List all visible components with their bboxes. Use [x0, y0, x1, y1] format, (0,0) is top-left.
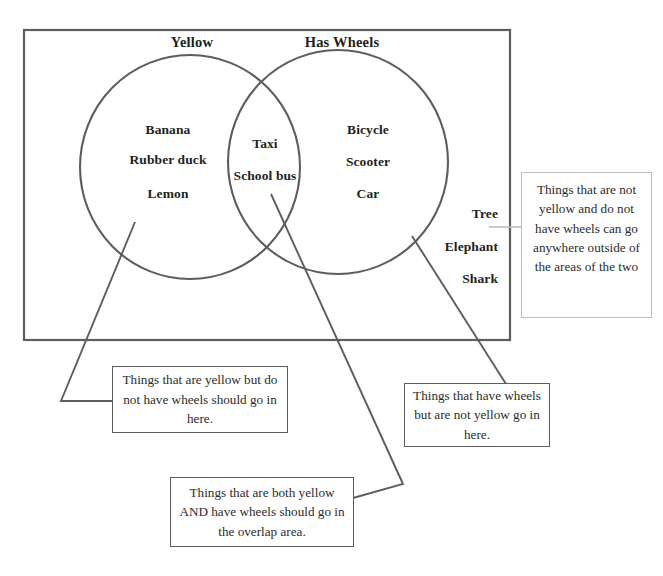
callout-right-only-text: Things that have wheels but are not yell… [411, 386, 543, 445]
leader-line-right-callout [412, 236, 506, 384]
callout-right-only: Things that have wheels but are not yell… [404, 383, 550, 447]
item-elephant: Elephant [445, 239, 498, 255]
item-car: Car [357, 186, 380, 202]
leader-line-middle-callout [271, 194, 403, 498]
item-rubber-duck: Rubber duck [129, 152, 206, 168]
callout-intersection: Things that are both yellow AND have whe… [170, 477, 354, 547]
callout-left-only-text: Things that are yellow but do not have w… [119, 370, 281, 429]
item-lemon: Lemon [148, 186, 189, 202]
callout-left-only: Things that are yellow but do not have w… [112, 366, 288, 433]
callout-outside-text: Things that are not yellow and do not ha… [528, 180, 645, 276]
venn-diagram-page: Yellow Has Wheels Banana Rubber duck Lem… [0, 0, 663, 576]
item-scooter: Scooter [346, 154, 390, 170]
item-tree: Tree [472, 206, 498, 222]
item-banana: Banana [146, 122, 191, 138]
item-school-bus: School bus [234, 168, 297, 184]
item-shark: Shark [462, 271, 498, 287]
callout-intersection-text: Things that are both yellow AND have whe… [177, 483, 347, 542]
circle-title-yellow: Yellow [171, 34, 213, 51]
item-bicycle: Bicycle [347, 122, 389, 138]
callout-outside: Things that are not yellow and do not ha… [521, 172, 652, 318]
item-taxi: Taxi [252, 136, 277, 152]
circle-title-has-wheels: Has Wheels [305, 34, 380, 51]
